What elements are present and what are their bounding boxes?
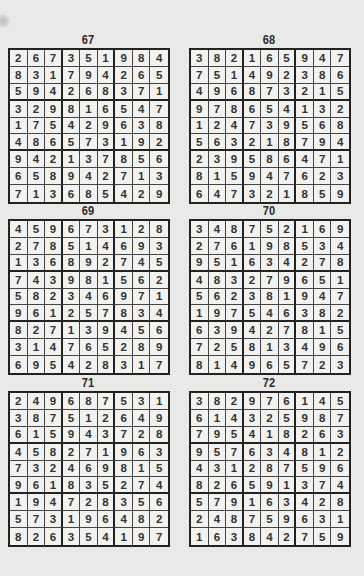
page-smudge: [0, 14, 10, 28]
grid-cell: 5: [314, 272, 332, 289]
grid-cell: 1: [150, 393, 168, 410]
grid-cell: 4: [150, 305, 168, 322]
puzzle-title: 69: [20, 203, 156, 219]
grid-cell: 1: [80, 101, 98, 118]
grid-cell: 7: [45, 410, 63, 427]
grid-cell: 6: [45, 528, 63, 545]
grid-cell: 7: [314, 255, 332, 272]
grid-cell: 9: [296, 410, 314, 427]
grid-cell: 4: [98, 238, 116, 255]
grid-cell: 9: [133, 528, 151, 545]
grid-cell: 6: [331, 67, 349, 84]
grid-cell: 2: [28, 322, 46, 339]
puzzle-67: 67 2673519848317942655942683713298165471…: [8, 32, 168, 204]
grid-cell: 1: [63, 511, 81, 528]
grid-cell: 8: [296, 322, 314, 339]
sudoku-grid: 4596731282785146931368927457439815625823…: [8, 219, 170, 375]
grid-cell: 8: [10, 322, 28, 339]
grid-cell: 1: [279, 477, 297, 494]
grid-cell: 4: [261, 168, 279, 185]
grid-cell: 7: [209, 101, 227, 118]
grid-cell: 2: [98, 410, 116, 427]
grid-cell: 3: [133, 393, 151, 410]
grid-cell: 2: [115, 477, 133, 494]
grid-cell: 7: [314, 151, 332, 168]
grid-cell: 1: [209, 410, 227, 427]
grid-cell: 3: [244, 289, 262, 306]
grid-cell: 4: [28, 272, 46, 289]
grid-cell: 9: [331, 528, 349, 545]
grid-cell: 1: [191, 528, 209, 545]
grid-cell: 8: [10, 528, 28, 545]
grid-cell: 6: [331, 339, 349, 356]
grid-cell: 5: [98, 477, 116, 494]
grid-cell: 5: [244, 305, 262, 322]
grid-cell: 4: [133, 255, 151, 272]
grid-cell: 1: [331, 151, 349, 168]
grid-cell: 8: [296, 444, 314, 461]
grid-cell: 2: [45, 151, 63, 168]
puzzle-70: 70 3487521692761985349516342784832796515…: [189, 203, 349, 375]
grid-cell: 4: [226, 356, 244, 373]
grid-cell: 6: [45, 255, 63, 272]
grid-cell: 2: [150, 511, 168, 528]
grid-cell: 8: [279, 134, 297, 151]
grid-cell: 8: [98, 356, 116, 373]
grid-cell: 2: [296, 427, 314, 444]
grid-cell: 6: [226, 238, 244, 255]
grid-cell: 5: [150, 67, 168, 84]
grid-cell: 5: [314, 528, 332, 545]
grid-cell: 8: [244, 528, 262, 545]
grid-cell: 6: [244, 444, 262, 461]
grid-cell: 7: [10, 272, 28, 289]
grid-cell: 6: [80, 84, 98, 101]
grid-cell: 9: [98, 461, 116, 478]
grid-cell: 5: [191, 134, 209, 151]
grid-cell: 2: [261, 410, 279, 427]
grid-cell: 6: [28, 477, 46, 494]
sudoku-grid: 3821659477514923864968732159786541321247…: [189, 48, 351, 204]
grid-cell: 4: [98, 67, 116, 84]
grid-cell: 6: [226, 477, 244, 494]
grid-cell: 7: [261, 84, 279, 101]
grid-cell: 9: [98, 322, 116, 339]
grid-cell: 7: [244, 511, 262, 528]
grid-cell: 4: [80, 289, 98, 306]
sudoku-grid: 2673519848317942655942683713298165471754…: [8, 48, 170, 204]
grid-cell: 4: [115, 322, 133, 339]
grid-cell: 9: [279, 511, 297, 528]
grid-cell: 8: [115, 461, 133, 478]
grid-cell: 9: [226, 494, 244, 511]
grid-cell: 2: [244, 272, 262, 289]
grid-cell: 2: [226, 289, 244, 306]
grid-cell: 4: [63, 461, 81, 478]
grid-cell: 8: [28, 134, 46, 151]
grid-cell: 6: [226, 84, 244, 101]
grid-cell: 4: [80, 168, 98, 185]
grid-cell: 4: [226, 118, 244, 135]
grid-cell: 7: [261, 272, 279, 289]
grid-cell: 2: [191, 151, 209, 168]
grid-cell: 9: [28, 356, 46, 373]
grid-cell: 7: [261, 393, 279, 410]
grid-cell: 1: [133, 356, 151, 373]
grid-cell: 3: [115, 494, 133, 511]
grid-cell: 3: [226, 272, 244, 289]
grid-cell: 5: [45, 356, 63, 373]
grid-cell: 7: [296, 528, 314, 545]
grid-cell: 6: [279, 305, 297, 322]
grid-cell: 9: [80, 67, 98, 84]
grid-cell: 3: [191, 50, 209, 67]
grid-cell: 1: [28, 339, 46, 356]
grid-cell: 7: [191, 427, 209, 444]
grid-cell: 9: [150, 410, 168, 427]
grid-cell: 6: [115, 118, 133, 135]
grid-cell: 3: [28, 461, 46, 478]
grid-cell: 2: [261, 185, 279, 202]
grid-cell: 1: [115, 528, 133, 545]
grid-cell: 6: [10, 168, 28, 185]
grid-cell: 6: [80, 461, 98, 478]
grid-cell: 4: [191, 84, 209, 101]
grid-cell: 3: [150, 168, 168, 185]
grid-cell: 5: [98, 185, 116, 202]
